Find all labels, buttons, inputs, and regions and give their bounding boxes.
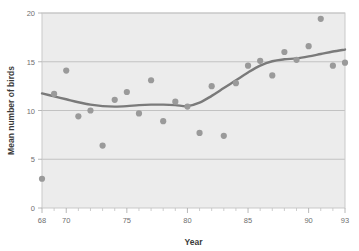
data-point <box>39 176 45 182</box>
data-point <box>184 104 190 110</box>
x-tick-label-85: 85 <box>244 216 252 225</box>
scatter-chart: 05101520 68707580859093 Year Mean number… <box>0 0 359 251</box>
data-point <box>87 107 93 113</box>
data-point <box>136 110 142 116</box>
x-tick-label-70: 70 <box>62 216 70 225</box>
data-point <box>75 113 81 119</box>
x-tick-label-80: 80 <box>183 216 191 225</box>
data-point <box>257 58 263 64</box>
data-point <box>112 97 118 103</box>
y-axis-label: Mean number of birds <box>6 66 16 155</box>
data-point <box>342 60 348 66</box>
data-point <box>269 72 275 78</box>
y-tick-label-20: 20 <box>27 9 35 18</box>
data-point <box>100 143 106 149</box>
x-tick-label-68: 68 <box>38 216 46 225</box>
y-tick-label-0: 0 <box>31 204 35 213</box>
data-point <box>281 49 287 55</box>
data-point <box>306 43 312 49</box>
data-point <box>330 63 336 69</box>
data-point <box>221 133 227 139</box>
data-point <box>160 118 166 124</box>
x-tick-label-75: 75 <box>123 216 131 225</box>
y-tick-label-10: 10 <box>27 107 35 116</box>
chart-svg: 05101520 68707580859093 Year Mean number… <box>0 0 359 251</box>
data-point <box>293 57 299 63</box>
data-point <box>63 67 69 73</box>
data-point <box>318 16 324 22</box>
data-point <box>51 91 57 97</box>
x-axis-label: Year <box>185 237 204 247</box>
data-point <box>196 130 202 136</box>
data-point <box>209 83 215 89</box>
data-point <box>245 63 251 69</box>
x-tick-label-90: 90 <box>304 216 312 225</box>
data-point <box>172 99 178 105</box>
y-tick-label-5: 5 <box>31 155 35 164</box>
y-tick-label-15: 15 <box>27 58 35 67</box>
data-point <box>124 89 130 95</box>
x-tick-label-93: 93 <box>341 216 349 225</box>
data-point <box>233 80 239 86</box>
data-point <box>148 77 154 83</box>
